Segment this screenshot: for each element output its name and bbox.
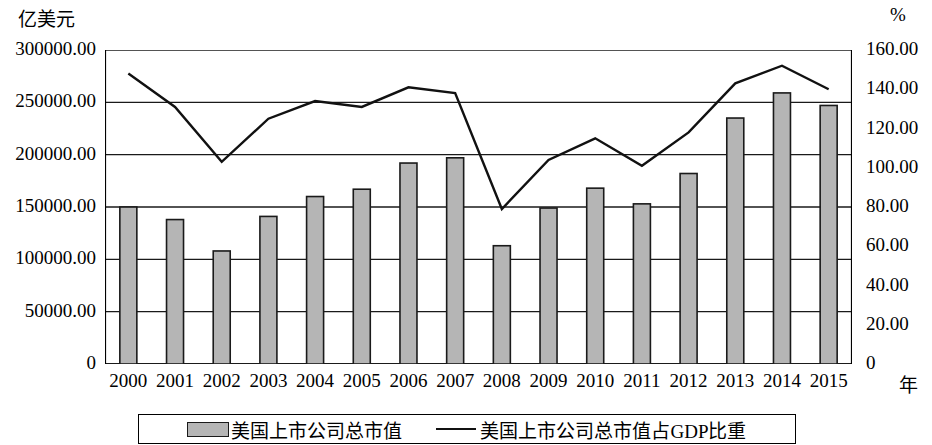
bar-2010 <box>587 188 604 364</box>
x-axis-tick-2004: 2004 <box>290 370 340 392</box>
bar-2000 <box>120 207 137 364</box>
x-axis-tick-2008: 2008 <box>477 370 527 392</box>
bar-2015 <box>820 105 837 364</box>
left-axis-tick-6: 0 <box>87 352 97 374</box>
plot-area <box>105 50 852 364</box>
bar-2011 <box>633 204 650 364</box>
bar-2001 <box>167 220 184 364</box>
line-series-gdp-ratio <box>128 66 828 209</box>
x-axis-tick-2006: 2006 <box>383 370 433 392</box>
x-axis-tick-2000: 2000 <box>103 370 153 392</box>
legend-item-line: 美国上市公司总市值占GDP比重 <box>436 416 746 443</box>
x-axis-tick-2012: 2012 <box>664 370 714 392</box>
x-axis-tick-2005: 2005 <box>337 370 387 392</box>
bar-2002 <box>213 251 230 364</box>
left-axis-tick-1: 250000.00 <box>15 90 96 112</box>
legend-bar-label: 美国上市公司总市值 <box>231 416 402 443</box>
legend-line-swatch-icon <box>436 428 476 430</box>
data-series-layer <box>105 50 852 364</box>
bar-2005 <box>353 189 370 364</box>
bar-2003 <box>260 216 277 364</box>
left-axis-tick-4: 100000.00 <box>15 247 96 269</box>
x-axis-unit-label: 年 <box>899 370 918 397</box>
right-axis-tick-7: 20.00 <box>866 313 909 335</box>
left-axis-tick-3: 150000.00 <box>15 195 96 217</box>
bar-2009 <box>540 208 557 364</box>
x-axis-tick-2007: 2007 <box>430 370 480 392</box>
right-axis-tick-1: 140.00 <box>866 77 918 99</box>
right-axis-tick-4: 80.00 <box>866 195 909 217</box>
x-axis-tick-2015: 2015 <box>804 370 854 392</box>
right-axis-tick-5: 60.00 <box>866 234 909 256</box>
bar-2008 <box>493 246 510 364</box>
x-axis-tick-2002: 2002 <box>197 370 247 392</box>
bar-2013 <box>727 118 744 364</box>
right-axis-tick-0: 160.00 <box>866 38 918 60</box>
x-axis-tick-2003: 2003 <box>243 370 293 392</box>
right-axis-tick-6: 40.00 <box>866 274 909 296</box>
bar-2014 <box>773 93 790 364</box>
chart-legend: 美国上市公司总市值 美国上市公司总市值占GDP比重 <box>138 414 796 444</box>
left-axis-tick-0: 300000.00 <box>15 38 96 60</box>
x-axis-tick-2013: 2013 <box>710 370 760 392</box>
bar-2007 <box>447 158 464 364</box>
left-axis-tick-2: 200000.00 <box>15 143 96 165</box>
x-axis-tick-2010: 2010 <box>570 370 620 392</box>
bar-2004 <box>307 197 324 364</box>
legend-bar-swatch-icon <box>187 422 229 437</box>
legend-line-label: 美国上市公司总市值占GDP比重 <box>480 416 746 443</box>
left-axis-unit-label: 亿美元 <box>18 4 75 31</box>
bar-2012 <box>680 174 697 364</box>
chart-figure: 亿美元 % 300000.00250000.00200000.00150000.… <box>0 0 932 445</box>
legend-item-bar: 美国上市公司总市值 <box>187 416 402 443</box>
x-axis-tick-2011: 2011 <box>617 370 667 392</box>
right-axis-unit-label: % <box>890 4 906 26</box>
right-axis-tick-3: 100.00 <box>866 156 918 178</box>
x-axis-tick-2009: 2009 <box>524 370 574 392</box>
left-axis-tick-5: 50000.00 <box>25 300 96 322</box>
x-axis-tick-2001: 2001 <box>150 370 200 392</box>
right-axis-tick-2: 120.00 <box>866 117 918 139</box>
right-axis-tick-8: 0 <box>866 352 876 374</box>
x-axis-tick-2014: 2014 <box>757 370 807 392</box>
bar-2006 <box>400 163 417 364</box>
